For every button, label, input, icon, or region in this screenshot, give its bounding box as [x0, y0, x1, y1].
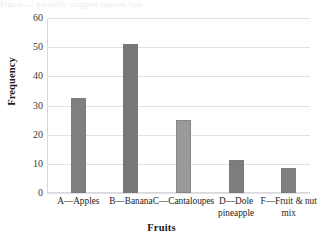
- bar: [71, 98, 86, 193]
- x-tick-label: F—Fruit & nut mix: [256, 196, 322, 219]
- x-axis-title: Fruits: [0, 222, 323, 233]
- gridline: [47, 193, 310, 194]
- y-axis-tick-labels: 0102030405060: [9, 18, 43, 193]
- y-tick-label: 10: [13, 159, 43, 169]
- plot-area: [47, 18, 310, 193]
- y-tick-label: 20: [13, 130, 43, 140]
- bar-chart: Figure — partially cropped caption line …: [0, 0, 323, 239]
- y-tick-label: 50: [13, 42, 43, 52]
- gridline: [47, 106, 310, 107]
- x-tick-label-line: A—Apples: [57, 196, 99, 206]
- cropped-caption-strip: Figure — partially cropped caption line: [0, 0, 323, 9]
- gridline: [47, 18, 310, 19]
- y-tick-label: 60: [13, 13, 43, 23]
- bar: [123, 44, 138, 193]
- x-tick-label-line: F—Fruit & nut: [261, 196, 317, 206]
- y-tick-label: 30: [13, 101, 43, 111]
- y-tick-label: 40: [13, 71, 43, 81]
- x-tick-label-line: B—Banana: [109, 196, 152, 206]
- y-tick-label: 0: [13, 188, 43, 198]
- bar: [281, 168, 296, 193]
- bar: [176, 120, 191, 193]
- gridline: [47, 76, 310, 77]
- bar: [229, 160, 244, 194]
- x-tick-label-line: D—Dole: [219, 196, 253, 206]
- gridline: [47, 47, 310, 48]
- x-tick-label-line: mix: [256, 208, 322, 220]
